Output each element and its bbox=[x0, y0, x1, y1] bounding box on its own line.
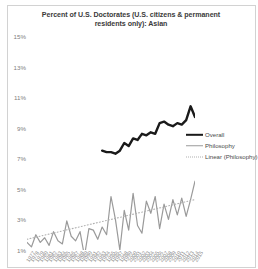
y-axis-tick-label: 11% bbox=[8, 94, 26, 101]
y-axis-tick-label: 5% bbox=[8, 185, 26, 192]
plot-svg bbox=[27, 36, 195, 250]
y-axis-tick-label: 7% bbox=[8, 155, 26, 162]
legend-item-overall[interactable]: Overall bbox=[186, 129, 256, 140]
legend-swatch-overall-icon bbox=[186, 130, 203, 139]
y-axis-tick-label: 9% bbox=[8, 124, 26, 131]
series-line-linear-philosophy bbox=[27, 200, 195, 240]
series-line-philosophy bbox=[27, 181, 195, 250]
y-axis-tick-label: 1% bbox=[8, 247, 26, 254]
y-axis-tick-label: 13% bbox=[8, 63, 26, 70]
series-line-overall bbox=[102, 106, 195, 153]
legend-swatch-trend-icon bbox=[186, 152, 203, 161]
legend-item-label: Overall bbox=[205, 131, 224, 139]
y-axis: 1%3%5%7%9%11%13%15% bbox=[8, 36, 26, 250]
legend-item-label: Philosophy bbox=[205, 142, 235, 150]
legend-swatch-philosophy-icon bbox=[186, 141, 203, 150]
plot-area bbox=[27, 36, 195, 250]
chart-container: Percent of U.S. Doctorates (U.S. citizen… bbox=[0, 0, 258, 269]
chart-title: Percent of U.S. Doctorates (U.S. citizen… bbox=[28, 11, 234, 30]
legend-item-philosophy[interactable]: Philosophy bbox=[186, 140, 256, 151]
legend-item-trend[interactable]: Linear (Philosophy) bbox=[186, 151, 256, 162]
chart-legend: OverallPhilosophyLinear (Philosophy) bbox=[186, 129, 256, 162]
legend-item-label: Linear (Philosophy) bbox=[205, 153, 258, 161]
y-axis-tick-label: 15% bbox=[8, 33, 26, 40]
y-axis-tick-label: 3% bbox=[8, 216, 26, 223]
x-axis: 1977197819791980198119821983198419851986… bbox=[27, 250, 195, 269]
